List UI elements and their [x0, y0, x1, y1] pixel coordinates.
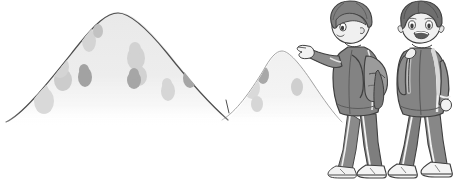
boy-right-left-leg — [399, 112, 421, 168]
hill-blob — [162, 78, 172, 90]
boy-right-left-shoe — [388, 164, 417, 178]
hill-blob — [244, 72, 256, 88]
boy-right-pupil-left — [410, 24, 413, 29]
landscape-group — [2, 12, 344, 126]
hill-blob — [35, 83, 49, 101]
hill-blob — [291, 78, 303, 96]
hill-blob — [251, 96, 263, 112]
boy-left-pupil — [341, 26, 344, 31]
hill-blob — [129, 68, 139, 80]
boy-right-pupil-right — [427, 24, 430, 29]
boy-left-back-shoe — [328, 166, 356, 178]
boy-right-collar — [412, 44, 432, 48]
boy-left-front-shoe — [357, 165, 386, 178]
hill-blob — [183, 68, 197, 88]
boy-left-ear — [360, 28, 364, 34]
scene-svg — [0, 0, 470, 181]
hill-blob — [184, 65, 194, 77]
hill-front — [2, 12, 232, 126]
hill-blob — [54, 53, 66, 67]
hill-blob — [93, 24, 103, 38]
illustration-canvas: Two boys in tracksuits looking at hills … — [0, 0, 470, 181]
hill-blob — [79, 64, 89, 76]
hill-blob — [257, 66, 269, 84]
character-boy-smiling[interactable] — [388, 1, 452, 178]
boy-right-right-hand — [441, 99, 452, 111]
hill-blob — [129, 42, 141, 56]
hill-front-outline-tail — [226, 100, 229, 113]
